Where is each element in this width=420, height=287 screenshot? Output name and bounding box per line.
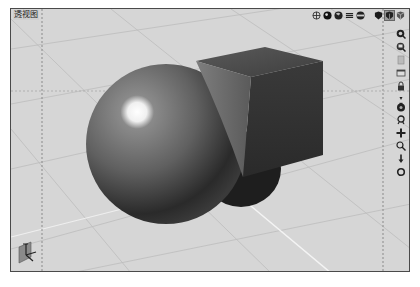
- zoom-icon[interactable]: [396, 141, 406, 151]
- pan-icon[interactable]: [396, 128, 406, 138]
- lines-icon[interactable]: [345, 11, 354, 20]
- shaded-sphere-icon[interactable]: [323, 11, 332, 20]
- axis-gizmo-icon: [17, 239, 39, 265]
- viewport-title[interactable]: 透视图: [13, 10, 39, 20]
- dropdown-arrow-icon[interactable]: [396, 94, 406, 99]
- perspective-viewport[interactable]: 透视图: [10, 8, 410, 272]
- zoom-region-icon[interactable]: [396, 29, 406, 39]
- roll-icon[interactable]: [396, 167, 406, 177]
- flat-shield-icon[interactable]: [374, 11, 383, 20]
- lock-icon[interactable]: [396, 81, 406, 91]
- box-wire-icon[interactable]: [396, 11, 405, 20]
- document-icon[interactable]: [396, 55, 406, 65]
- display-mode-toolbar: [312, 11, 405, 20]
- scene-canvas[interactable]: [11, 9, 410, 272]
- navigation-toolbar: [396, 29, 406, 177]
- window-icon[interactable]: [396, 68, 406, 78]
- walk-icon[interactable]: [396, 115, 406, 125]
- dolly-icon[interactable]: [396, 154, 406, 164]
- wireframe-globe-icon[interactable]: [312, 11, 321, 20]
- box-shaded-icon[interactable]: [385, 11, 394, 20]
- camera-orbit-icon[interactable]: [396, 102, 406, 112]
- hidden-line-icon[interactable]: [356, 11, 365, 20]
- smooth-shaded-icon[interactable]: [334, 11, 343, 20]
- zoom-extents-icon[interactable]: [396, 42, 406, 52]
